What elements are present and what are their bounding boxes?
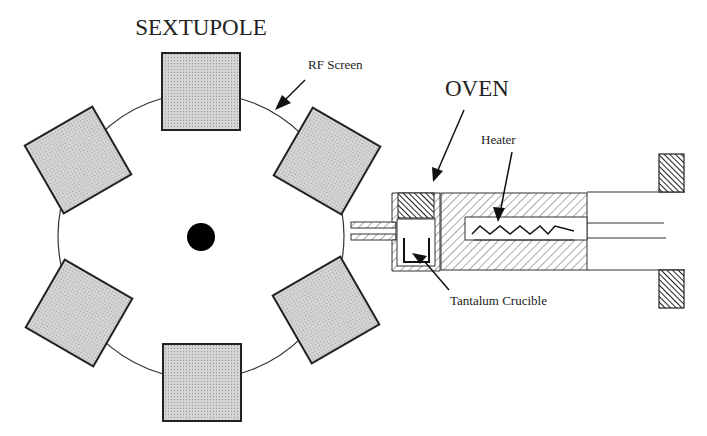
nozzle-upper xyxy=(351,222,396,228)
crucible-lid xyxy=(398,193,434,218)
pole-bottom xyxy=(163,344,241,421)
rf-screen-arrow-line xyxy=(285,80,305,100)
label-heater: Heater xyxy=(481,132,516,147)
sextupole-oven-diagram: SEXTUPOLE RF Screen OVEN xyxy=(0,0,707,436)
label-rf-screen: RF Screen xyxy=(308,57,363,72)
nozzle-lower xyxy=(351,234,396,240)
pole-top xyxy=(162,53,240,130)
beam-axis-dot xyxy=(187,223,215,251)
title-sextupole: SEXTUPOLE xyxy=(135,15,267,40)
oven-assembly xyxy=(351,154,685,308)
pole-upper-left xyxy=(25,107,132,214)
flange-top xyxy=(659,154,684,192)
pole-lower-right xyxy=(273,257,380,364)
oven-arrow-line xyxy=(438,110,464,170)
label-tantalum-crucible: Tantalum Crucible xyxy=(450,293,547,308)
oven-arrowhead-icon xyxy=(432,167,443,182)
oven-label-text: OVEN xyxy=(445,76,509,101)
flange-bottom xyxy=(659,270,684,308)
pole-lower-left xyxy=(26,260,133,367)
